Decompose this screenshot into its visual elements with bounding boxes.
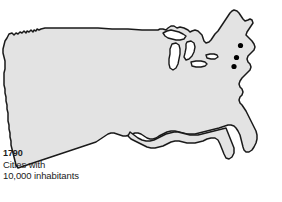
map-caption: 1790 Cities with 10,000 inhabitants <box>3 148 79 181</box>
caption-year: 1790 <box>3 148 79 159</box>
caption-line-1: Cities with <box>3 159 79 170</box>
caption-line-2: 10,000 inhabitants <box>3 170 79 181</box>
us-landmass-shape <box>3 10 257 168</box>
city-dot-boston <box>238 43 243 48</box>
city-dot-philadelphia <box>231 64 236 69</box>
map-figure: 1790 Cities with 10,000 inhabitants <box>0 0 282 202</box>
lake-erie-shape <box>191 61 207 67</box>
city-dot-new-york <box>234 55 239 60</box>
lake-ontario-shape <box>206 54 218 59</box>
